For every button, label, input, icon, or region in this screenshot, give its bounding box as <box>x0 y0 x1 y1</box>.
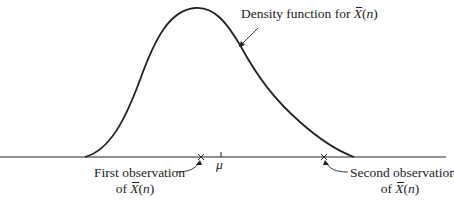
n-symbol: n <box>143 181 150 196</box>
first-observation-line2: of X(n) <box>94 181 176 197</box>
first-observation-arrowhead <box>196 160 202 165</box>
x-bar-symbol: X <box>395 181 403 197</box>
second-observation-label: Second observation of X(n) <box>350 165 450 197</box>
paren-close: ) <box>373 6 378 21</box>
density-function-label: Density function for X(n) <box>241 6 378 22</box>
x-bar-symbol: X <box>354 6 362 22</box>
of-text: of <box>116 181 131 196</box>
of-text: of <box>381 181 396 196</box>
density-label-text: Density function for <box>241 6 354 21</box>
second-observation-arrowhead <box>323 160 329 165</box>
mu-label: μ <box>216 157 223 173</box>
x-bar-symbol: X <box>130 181 138 197</box>
density-diagram: Density function for X(n) μ First observ… <box>0 0 454 202</box>
n-symbol: n <box>408 181 415 196</box>
second-observation-pointer <box>326 162 348 172</box>
second-observation-line2: of X(n) <box>350 181 450 197</box>
first-observation-label: First observation of X(n) <box>94 165 176 197</box>
second-observation-line1: Second observation <box>350 165 450 181</box>
first-observation-line1: First observation <box>94 165 176 181</box>
density-curve <box>85 8 354 157</box>
